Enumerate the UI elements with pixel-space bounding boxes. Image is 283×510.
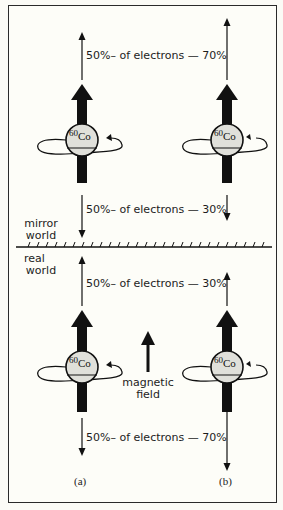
electron-arrow-up-a-mirror — [79, 32, 86, 80]
emission-label-mirror-up: 50%– of electrons — 70% — [86, 50, 227, 62]
electron-arrow-up-a-real — [79, 256, 86, 306]
rotation-arrowhead-icon — [246, 134, 251, 140]
panel-label-b: (b) — [219, 475, 232, 487]
nucleus-label-a-mirror: 60Co — [69, 130, 91, 142]
nucleus-label-a-real: 60Co — [69, 357, 91, 369]
nucleus-label-b-mirror: 60Co — [214, 130, 236, 142]
mirror-plane — [16, 242, 272, 247]
real-world-label: real world — [24, 253, 58, 277]
magnetic-field-arrow — [141, 331, 155, 372]
emission-label-real-up: 50%– of electrons — 30% — [86, 278, 227, 290]
emission-label-real-down: 50%– of electrons — 70% — [86, 432, 227, 444]
rotation-arrowhead-icon — [106, 134, 112, 141]
emission-label-mirror-down: 50%– of electrons — 30% — [86, 204, 227, 216]
rotation-arrowhead-icon — [246, 361, 251, 367]
rotation-arrowhead-icon — [106, 361, 112, 368]
panel-label-a: (a) — [74, 475, 86, 487]
electron-arrow-down-a-mirror — [79, 195, 86, 238]
nucleus-label-b-real: 60Co — [214, 357, 236, 369]
electron-arrow-down-a-real — [79, 418, 86, 456]
magnetic-field-label: magnetic field — [118, 377, 178, 401]
mirror-world-label: mirror world — [24, 218, 58, 242]
